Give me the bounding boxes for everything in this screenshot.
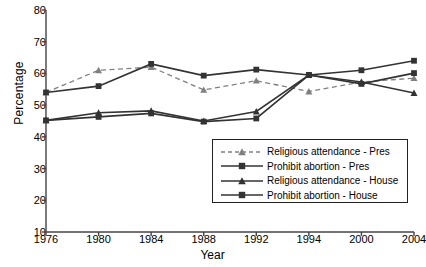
x-tick-label: 1984 <box>139 234 163 245</box>
x-tick-label: 1976 <box>34 234 58 245</box>
legend-square-marker-icon <box>219 188 265 202</box>
legend-item: Prohibit abortion - Pres <box>219 159 369 174</box>
x-tick-label: 1980 <box>86 234 110 245</box>
series-prohibit-abortion-house <box>43 58 417 96</box>
x-axis-title: Year <box>0 248 425 262</box>
legend-square-marker-icon <box>219 159 265 173</box>
legend-item: Prohibit abortion - House <box>219 188 378 203</box>
legend-label: Religious attendance - Pres <box>267 146 390 157</box>
chart-legend: Religious attendance - PresProhibit abor… <box>212 139 408 203</box>
legend-item: Religious attendance - Pres <box>219 144 390 159</box>
legend-triangle-marker-icon <box>219 145 265 159</box>
legend-label: Prohibit abortion - House <box>267 190 378 201</box>
x-tick-label: 1994 <box>297 234 321 245</box>
legend-triangle-marker-icon <box>219 174 265 188</box>
x-tick-label: 1988 <box>191 234 215 245</box>
x-tick-label: 2000 <box>349 234 373 245</box>
x-tick-label: 1992 <box>244 234 268 245</box>
legend-item: Religious attendance - House <box>219 173 398 188</box>
legend-label: Prohibit abortion - Pres <box>267 161 369 172</box>
legend-label: Religious attendance - House <box>267 175 398 186</box>
x-tick-label: 2004 <box>402 234 426 245</box>
